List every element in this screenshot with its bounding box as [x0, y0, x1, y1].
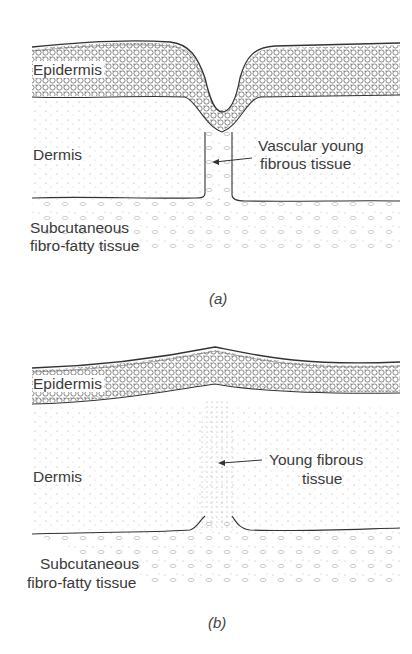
- caption-b: (b): [208, 614, 226, 631]
- label-dermis: Dermis: [33, 146, 82, 163]
- label-epidermis: Epidermis: [33, 375, 104, 392]
- panel-b-wound-healing-late: Epidermis Dermis Young fibrous tissue Su…: [0, 320, 412, 654]
- label-annotation-line1: Vascular young: [258, 137, 364, 154]
- label-fibro-fatty: fibro-fatty tissue: [27, 574, 136, 591]
- label-subcutaneous: Subcutaneous: [30, 219, 129, 236]
- panel-a-wound-healing-early: Epidermis Dermis Vascular young fibrous …: [0, 0, 412, 320]
- label-subcutaneous: Subcutaneous: [40, 555, 139, 572]
- label-annotation-line2: fibrous tissue: [260, 155, 351, 172]
- label-dermis: Dermis: [33, 468, 82, 485]
- label-fibro-fatty: fibro-fatty tissue: [30, 237, 139, 254]
- label-annotation-line1: Young fibrous: [269, 451, 363, 468]
- skin-cross-section-b: [0, 320, 412, 654]
- label-epidermis: Epidermis: [33, 61, 104, 78]
- label-annotation-line2: tissue: [302, 470, 343, 487]
- caption-a: (a): [209, 290, 227, 307]
